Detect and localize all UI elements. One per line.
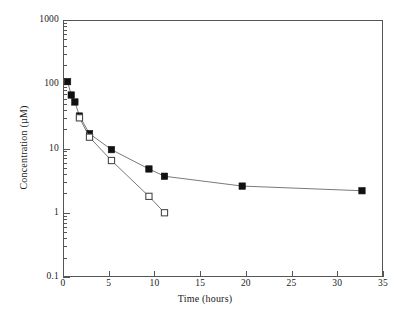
- x-tick-label: 15: [187, 279, 213, 289]
- y-tick-minor: [63, 163, 67, 164]
- x-tick-major: [63, 271, 64, 277]
- y-tick-label: 100: [44, 79, 59, 89]
- y-tick-minor: [63, 216, 67, 217]
- y-tick-minor: [63, 104, 67, 105]
- y-tick-major: [63, 84, 70, 85]
- y-tick-minor: [63, 34, 67, 35]
- x-tick-label: 20: [233, 279, 259, 289]
- y-tick-minor: [63, 158, 67, 159]
- y-tick-major: [63, 20, 70, 21]
- y-tick-minor: [63, 151, 67, 152]
- y-tick-minor: [63, 258, 67, 259]
- y-tick-minor: [63, 129, 67, 130]
- x-tick-label: 10: [141, 279, 167, 289]
- y-tick-minor: [63, 110, 67, 111]
- y-tick-major: [63, 213, 70, 214]
- y-tick-minor: [63, 87, 67, 88]
- y-tick-minor: [63, 46, 67, 47]
- x-tick-major: [383, 271, 384, 277]
- y-tick-label: 10: [49, 144, 59, 154]
- y-tick-minor: [63, 174, 67, 175]
- y-tick-minor: [63, 23, 67, 24]
- x-axis-title: Time (hours): [0, 293, 410, 304]
- x-tick-major: [200, 271, 201, 277]
- x-tick-major: [154, 271, 155, 277]
- y-tick-minor: [63, 39, 67, 40]
- y-tick-minor: [63, 155, 67, 156]
- x-tick-label: 30: [324, 279, 350, 289]
- y-tick-minor: [63, 30, 67, 31]
- y-tick-minor: [63, 246, 67, 247]
- y-tick-minor: [63, 168, 67, 169]
- y-tick-minor: [63, 65, 67, 66]
- y-tick-minor: [63, 182, 67, 183]
- x-tick-label: 35: [370, 279, 396, 289]
- y-tick-minor: [63, 99, 67, 100]
- y-tick-minor: [63, 219, 67, 220]
- x-tick-major: [337, 271, 338, 277]
- x-tick-major: [246, 271, 247, 277]
- x-tick-label: 25: [279, 279, 305, 289]
- y-tick-minor: [63, 227, 67, 228]
- y-tick-label: 1000: [39, 15, 59, 25]
- x-tick-label: 5: [96, 279, 122, 289]
- chart-figure: 10001001010.1 05101520253035 Time (hours…: [0, 0, 410, 323]
- y-axis-title: Concentration (µM): [18, 48, 29, 248]
- y-tick-minor: [63, 118, 67, 119]
- y-tick-minor: [63, 238, 67, 239]
- y-tick-minor: [63, 193, 67, 194]
- x-tick-major: [292, 271, 293, 277]
- y-tick-minor: [63, 26, 67, 27]
- plot-area-frame: [63, 20, 383, 277]
- y-tick-minor: [63, 90, 67, 91]
- y-tick-minor: [63, 94, 67, 95]
- x-tick-major: [109, 271, 110, 277]
- y-tick-minor: [63, 232, 67, 233]
- y-tick-major: [63, 149, 70, 150]
- x-tick-label: 0: [50, 279, 76, 289]
- y-tick-label: 1: [54, 208, 59, 218]
- y-tick-minor: [63, 223, 67, 224]
- y-tick-minor: [63, 54, 67, 55]
